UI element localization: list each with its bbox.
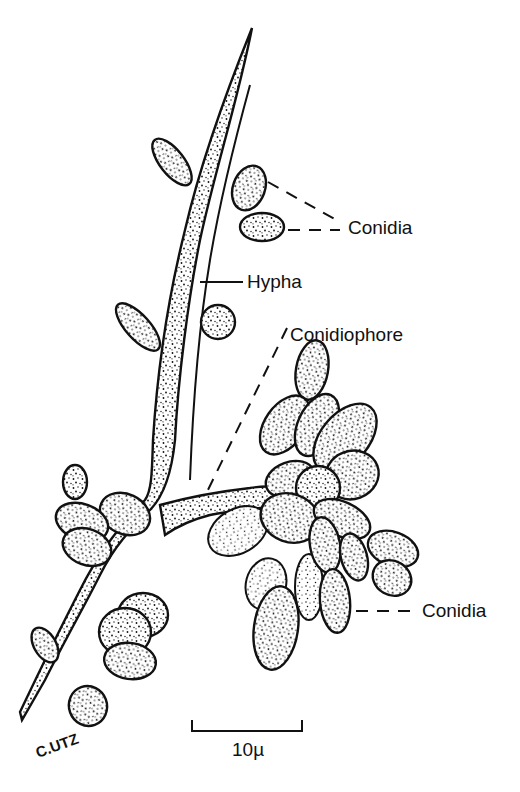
conidium	[226, 161, 272, 215]
leader-conidia-top-1	[268, 182, 340, 222]
fungus-illustration: Conidia Hypha Conidiophore Conidia 10µ C…	[0, 0, 520, 792]
artist-signature: C.UTZ	[33, 730, 80, 761]
conidium	[291, 338, 333, 403]
conidium	[201, 305, 235, 339]
scale-bar-label: 10µ	[232, 739, 264, 760]
scale-bar: 10µ	[192, 720, 302, 760]
conidium	[317, 568, 352, 634]
conidium	[145, 133, 198, 192]
label-conidia-top: Conidia	[348, 217, 413, 238]
label-hypha: Hypha	[247, 271, 302, 292]
label-conidia-bottom: Conidia	[422, 600, 487, 621]
conidium	[26, 623, 64, 667]
conidium	[240, 213, 284, 241]
conidium	[109, 297, 167, 358]
conidium	[63, 681, 112, 732]
label-conidiophore: Conidiophore	[290, 324, 403, 345]
conidium	[63, 465, 87, 499]
